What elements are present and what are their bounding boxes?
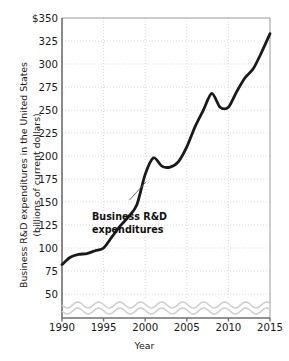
plot-area <box>0 0 289 361</box>
annotation-business-rd: Business R&D expenditures <box>92 211 167 236</box>
x-axis-title: Year <box>0 340 289 351</box>
annotation-line1: Business R&D <box>92 211 167 224</box>
chart-figure: Business R&D expenditures in the United … <box>0 0 289 361</box>
gridlines <box>62 18 270 300</box>
annotation-line2: expenditures <box>92 224 167 237</box>
axis-break-symbol <box>62 302 270 314</box>
axis-lines <box>62 18 270 322</box>
